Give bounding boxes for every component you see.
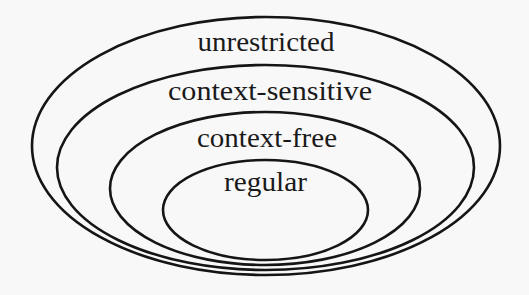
label-regular: regular (224, 167, 307, 197)
set-regular: regular (163, 160, 368, 260)
chomsky-hierarchy-diagram: unrestricted context-sensitive context-f… (0, 0, 529, 295)
label-context-sensitive: context-sensitive (168, 76, 372, 106)
label-unrestricted: unrestricted (198, 27, 336, 57)
label-context-free: context-free (197, 123, 337, 153)
